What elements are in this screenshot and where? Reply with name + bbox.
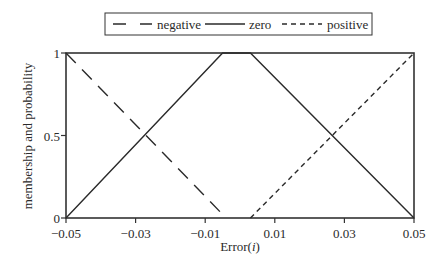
legend: negativezeropositive (105, 13, 372, 35)
y-axis-label: membership and probability (20, 62, 35, 209)
x-tick-label: −0.03 (121, 226, 151, 241)
legend-label-negative: negative (157, 17, 201, 32)
x-tick-label: 0.05 (403, 226, 426, 241)
y-tick-label: 0 (54, 211, 61, 226)
legend-label-zero: zero (249, 17, 271, 32)
x-tick-label: 0.03 (333, 226, 356, 241)
series-line-zero (66, 53, 414, 218)
plot-frame (66, 53, 414, 218)
membership-chart: negativezeropositive 00.51−0.05−0.03−0.0… (0, 0, 441, 269)
x-axis-label-part: ) (256, 239, 260, 254)
y-tick-label: 1 (54, 46, 61, 61)
x-tick-label: −0.01 (190, 226, 220, 241)
legend-label-positive: positive (327, 17, 368, 32)
x-tick-label: 0.01 (263, 226, 286, 241)
x-axis-label-part: Error( (220, 239, 252, 254)
x-tick-label: −0.05 (51, 226, 81, 241)
x-axis-label: Error(i) (220, 239, 260, 254)
y-tick-label: 0.5 (44, 129, 60, 144)
